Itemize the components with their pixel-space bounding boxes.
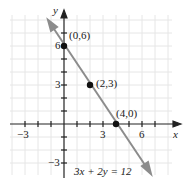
x-tick-6: 6 [139, 129, 145, 140]
y-tick-6: 6 [55, 40, 61, 51]
point-label-0-6: (0,6) [69, 30, 90, 41]
point-label-4-0: (4,0) [116, 108, 137, 119]
x-tick-3: 3 [100, 129, 106, 140]
point-label-2-3: (2,3) [96, 78, 117, 89]
point-2-3 [87, 82, 93, 88]
x-axis-label: x [173, 129, 178, 140]
equation-label: 3x + 2y = 12 [74, 166, 132, 177]
x-tick-neg3: −3 [17, 129, 29, 140]
point-4-0 [113, 121, 119, 127]
y-tick-3: 3 [55, 79, 61, 90]
y-tick-neg3: −3 [48, 157, 60, 168]
y-axis-label: y [53, 5, 58, 16]
point-0-6 [61, 43, 67, 49]
grid [10, 15, 172, 175]
plot-area [0, 0, 189, 187]
